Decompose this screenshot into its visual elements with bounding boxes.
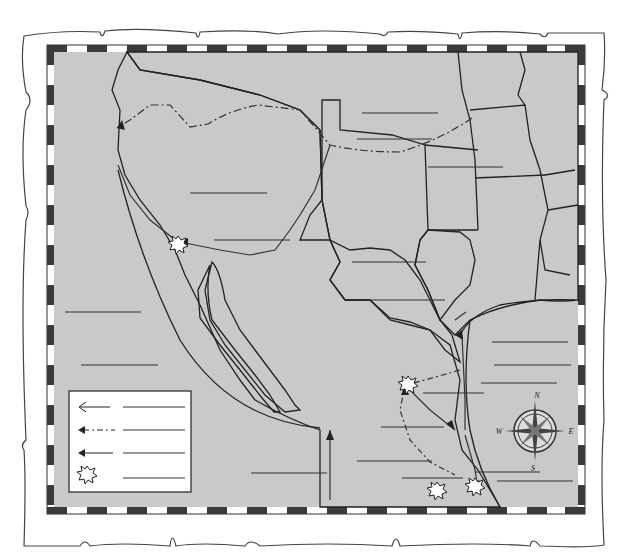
map-figure: N S E W <box>0 0 629 558</box>
compass-south: S <box>531 464 535 473</box>
compass-north: N <box>533 391 540 400</box>
map-legend <box>69 391 191 492</box>
compass-east: E <box>568 427 574 436</box>
